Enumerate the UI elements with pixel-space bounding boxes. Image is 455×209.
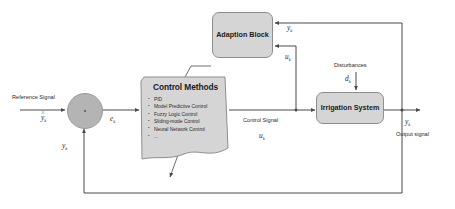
junction-dot-output-tap xyxy=(401,109,404,112)
disturbance-symbol: dk xyxy=(345,74,351,84)
adaption-block[interactable]: Adaption Block xyxy=(212,12,273,58)
list-item: PID xyxy=(146,96,225,103)
adaption-control-input-symbol: uk xyxy=(285,52,291,62)
list-item: Neural Network Control xyxy=(146,126,225,133)
disturbances-label: Disturbances xyxy=(334,62,367,68)
output-signal-symbol: yk xyxy=(405,117,410,127)
error-signal-symbol: ek xyxy=(110,114,115,124)
control-methods-content: Control Methods PID Model Predictive Con… xyxy=(140,76,229,160)
control-methods-title: Control Methods xyxy=(146,82,225,92)
output-signal-label: Output signal xyxy=(396,131,429,137)
list-item: ... xyxy=(146,133,225,140)
hat-accent-icon: ^ xyxy=(41,110,44,116)
list-item: Sliding-mode Control xyxy=(146,118,225,125)
control-system-diagram: Control Methods PID Model Predictive Con… xyxy=(0,0,455,209)
control-signal-symbol: uk xyxy=(259,131,265,141)
reference-signal-label: Reference Signal xyxy=(12,94,55,100)
control-signal-label: Control Signal xyxy=(243,117,278,123)
feedback-signal-symbol: yk xyxy=(62,141,67,151)
summing-junction[interactable] xyxy=(67,93,103,129)
summing-junction-center-dot xyxy=(84,110,86,112)
list-item: Fuzzy Logic Control xyxy=(146,111,225,118)
control-methods-list: PID Model Predictive Control Fuzzy Logic… xyxy=(146,96,225,141)
control-methods-block[interactable]: Control Methods PID Model Predictive Con… xyxy=(140,76,229,160)
list-item: Model Predictive Control xyxy=(146,103,225,110)
reference-signal-symbol: ^yk xyxy=(41,113,46,123)
junction-dot-control-tap xyxy=(295,109,298,112)
adaption-feedback-symbol: yk xyxy=(287,23,292,33)
irrigation-system-block[interactable]: Irrigation System xyxy=(316,92,384,124)
